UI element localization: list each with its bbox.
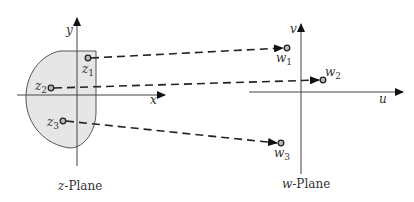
mapping-diagram: y x v u z1 z2 z3 w1 w2 w3 z-Plane w-Plan…: [0, 0, 414, 202]
label-w2: w2: [325, 65, 341, 81]
label-w1: w1: [276, 51, 292, 67]
point-z2: [48, 85, 54, 91]
point-w3: [278, 140, 284, 146]
mapping-arrow-3: [66, 121, 277, 143]
w-plane-title: w-Plane: [282, 177, 330, 191]
point-w1: [284, 45, 290, 51]
w-u-axis-label: u: [379, 92, 387, 106]
label-w3: w3: [274, 146, 290, 162]
z-plane-title: z-Plane: [57, 179, 102, 193]
mapping-arrow-1: [91, 48, 283, 58]
z-x-axis-label: x: [150, 93, 157, 107]
point-z1: [85, 55, 91, 61]
z-y-axis-label: y: [65, 23, 73, 37]
point-z3: [60, 118, 66, 124]
w-v-axis-label: v: [290, 22, 297, 36]
